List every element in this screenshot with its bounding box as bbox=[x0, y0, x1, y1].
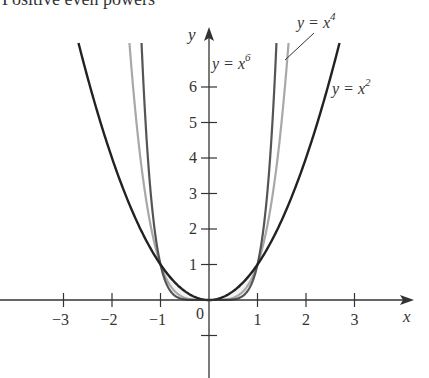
x-tick-label: 2 bbox=[302, 311, 310, 328]
x-axis-label: x bbox=[402, 307, 411, 326]
y-tick-label: 6 bbox=[189, 78, 197, 95]
label-x4-exp: 4 bbox=[330, 10, 336, 22]
svg-text:y = x6: y = x6 bbox=[210, 51, 251, 73]
svg-text:y = x2: y = x2 bbox=[330, 76, 371, 98]
y-tick-label: 1 bbox=[189, 256, 197, 273]
x-tick-label: −2 bbox=[100, 311, 117, 328]
x-tick-label: 1 bbox=[254, 311, 262, 328]
label-x6-exp: 6 bbox=[245, 51, 251, 63]
y-axis-label: y bbox=[186, 25, 196, 44]
x-tick-label: 3 bbox=[351, 311, 359, 328]
y-tick-label: 3 bbox=[189, 185, 197, 202]
power-functions-chart: −3−2−10123123456 x y y = x6 y = x4 y = x… bbox=[0, 0, 429, 378]
y-tick-label: 4 bbox=[189, 149, 197, 166]
label-x4-main: y = x bbox=[295, 14, 330, 32]
labels-group: x y y = x6 y = x4 y = x2 bbox=[186, 10, 411, 326]
label-x6-main: y = x bbox=[210, 55, 245, 73]
label-x2-exp: 2 bbox=[365, 76, 371, 88]
x-tick-label: −3 bbox=[52, 311, 69, 328]
label-x6: y = x6 bbox=[210, 51, 251, 73]
label-x2: y = x2 bbox=[330, 76, 371, 98]
svg-text:y = x4: y = x4 bbox=[295, 10, 336, 32]
x-tick-label: 0 bbox=[196, 305, 204, 322]
y-tick-label: 2 bbox=[189, 220, 197, 237]
label-x2-main: y = x bbox=[330, 80, 365, 98]
label-x4: y = x4 bbox=[285, 10, 336, 60]
x-tick-label: −1 bbox=[149, 311, 166, 328]
y-tick-label: 5 bbox=[189, 114, 197, 131]
